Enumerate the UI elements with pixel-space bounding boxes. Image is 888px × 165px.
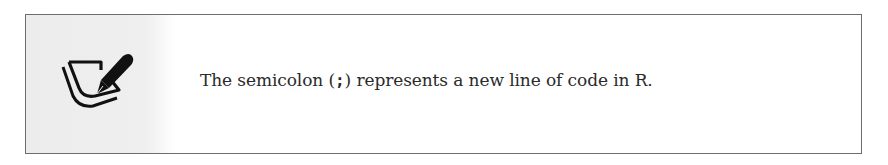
note-text-before: The semicolon ( bbox=[200, 70, 335, 90]
note-text-after: ) represents a new line of code in R. bbox=[345, 70, 653, 90]
note-pen-icon bbox=[57, 50, 137, 130]
note-box: The semicolon (;) represents a new line … bbox=[25, 14, 862, 154]
inline-code: ; bbox=[335, 71, 345, 90]
note-text: The semicolon (;) represents a new line … bbox=[200, 70, 653, 90]
note-icon-panel bbox=[26, 15, 176, 153]
